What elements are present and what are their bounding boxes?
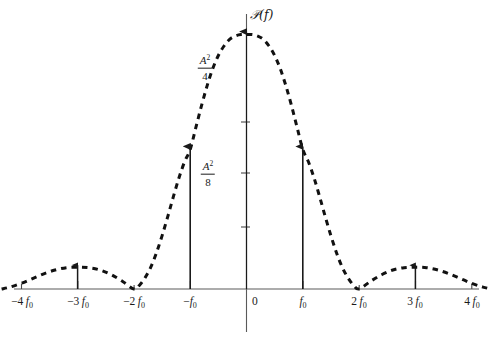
- y-tick-denominator: 8: [201, 174, 215, 187]
- y-axis-title: 𝒫(f): [250, 9, 273, 22]
- x-tick-label-minus-4f0: −4 f0: [11, 296, 33, 310]
- y-tick-numerator: A2: [198, 53, 212, 69]
- spectral-density-figure: 𝒫(f) A2 4 A2 8 −4 f0 −3 f0 −2 f0 −f0 0 f…: [0, 0, 493, 339]
- x-tick-label-f0: f0: [299, 296, 306, 310]
- y-axis-title-text: 𝒫(f): [250, 7, 273, 22]
- x-tick-label-3f0: 3 f0: [407, 296, 422, 310]
- x-tick-label-4f0: 4 f0: [464, 296, 479, 310]
- y-tick-label-a2-over-8: A2 8: [201, 159, 215, 188]
- x-tick-label-minus-f0: −f0: [183, 296, 197, 310]
- x-tick-label-minus-3f0: −3 f0: [67, 296, 89, 310]
- y-tick-label-a2-over-4: A2 4: [198, 53, 212, 82]
- plot-canvas: [0, 0, 493, 339]
- y-tick-denominator: 4: [198, 68, 212, 81]
- y-axis-ticks: [241, 122, 250, 227]
- x-tick-label-2f0: 2 f0: [351, 296, 366, 310]
- x-tick-label-minus-2f0: −2 f0: [123, 296, 145, 310]
- y-tick-numerator: A2: [201, 159, 215, 175]
- x-tick-label-zero: 0: [252, 296, 258, 308]
